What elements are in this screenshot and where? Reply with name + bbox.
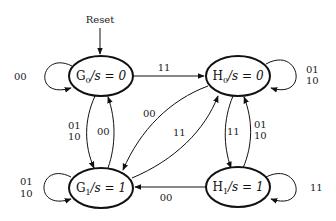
label-h0-g1: 00 [143, 108, 156, 119]
state-h1-name: H [212, 180, 222, 194]
state-g1-name: G [76, 181, 86, 195]
label-g0-h0: 11 [158, 62, 171, 73]
svg-text:G1/s = 1: G1/s = 1 [76, 181, 126, 197]
loop-g1 [44, 174, 71, 202]
state-h1: H1/s = 1 [206, 167, 270, 207]
state-g0-name: G [76, 69, 86, 83]
state-h0-output: /s = 0 [227, 69, 264, 83]
state-h0-name: H [212, 69, 222, 83]
state-h0: H0/s = 0 [206, 56, 270, 96]
label-h1-h0-2: 10 [254, 130, 267, 141]
label-h1-g1: 00 [160, 192, 173, 203]
svg-text:H0/s = 0: H0/s = 0 [212, 69, 263, 85]
reset-label: Reset [86, 14, 115, 25]
label-h0-loop-2: 10 [306, 75, 319, 86]
edge-h0-g1 [123, 86, 208, 170]
label-g1-loop-2: 10 [20, 188, 33, 199]
label-h1-h0-1: 01 [254, 119, 267, 130]
reset-arrow: Reset [86, 14, 115, 54]
svg-text:H1/s = 1: H1/s = 1 [212, 180, 263, 196]
edge-h1-h0 [243, 97, 251, 168]
svg-text:G0/s = 0: G0/s = 0 [76, 69, 127, 85]
label-g0-loop: 00 [14, 71, 27, 82]
edge-g0-g1 [87, 96, 95, 168]
label-g0-g1-2: 10 [68, 131, 81, 142]
state-g0-output: /s = 0 [90, 69, 127, 83]
label-h1-loop: 11 [310, 182, 323, 193]
loop-g0 [45, 63, 72, 90]
label-g1-loop-1: 01 [20, 176, 33, 187]
label-g1-g0: 00 [97, 126, 110, 137]
label-h0-h1: 11 [227, 126, 240, 137]
state-g1-output: /s = 1 [90, 181, 127, 195]
state-diagram: Reset 00 01 10 01 10 11 11 01 10 00 00 1… [0, 0, 336, 221]
label-g0-g1-1: 01 [68, 120, 81, 131]
state-g1: G1/s = 1 [69, 168, 133, 208]
state-g0: G0/s = 0 [69, 56, 133, 96]
label-g1-h0: 11 [173, 127, 186, 138]
label-h0-loop-1: 01 [306, 64, 319, 75]
state-h1-output: /s = 1 [227, 180, 264, 194]
